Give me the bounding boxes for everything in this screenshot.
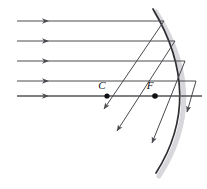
focal-point-label: F [146,79,154,91]
center-of-curvature-label: C [98,79,106,91]
center-of-curvature-dot [104,93,109,98]
focal-point-dot [152,93,158,99]
ray-diagram-canvas: C F [0,0,207,189]
mirror-group [153,9,184,176]
incoming-ray-arrowheads [42,18,49,99]
ray-diagram-figure: C F [0,0,207,189]
